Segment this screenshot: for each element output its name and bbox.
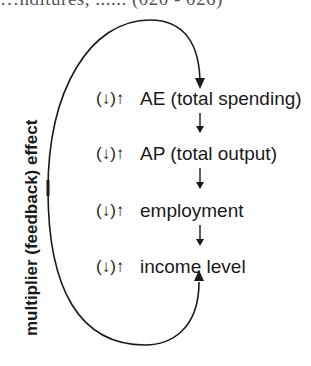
down-arrow-icon — [196, 239, 204, 246]
feedback-loop-diagram — [0, 0, 311, 366]
down-arrow-icon — [196, 126, 204, 133]
row-label: AP (total output) — [140, 143, 277, 165]
row-income-level: (↓)↑ income level — [96, 256, 246, 278]
increase-decrease-icon: (↓)↑ — [96, 201, 136, 221]
increase-decrease-icon: (↓)↑ — [96, 89, 136, 109]
row-employment: (↓)↑ employment — [96, 200, 244, 222]
row-ap: (↓)↑ AP (total output) — [96, 143, 277, 165]
increase-decrease-icon: (↓)↑ — [96, 144, 136, 164]
side-label: multiplier (feedback) effect — [22, 120, 42, 336]
down-arrow-icon — [196, 182, 204, 189]
row-ae: (↓)↑ AE (total spending) — [96, 88, 302, 110]
increase-decrease-icon: (↓)↑ — [96, 257, 136, 277]
row-label: AE (total spending) — [140, 88, 302, 110]
feedback-loop-curve — [48, 20, 200, 345]
row-label: employment — [140, 200, 244, 222]
row-label: income level — [140, 256, 246, 278]
